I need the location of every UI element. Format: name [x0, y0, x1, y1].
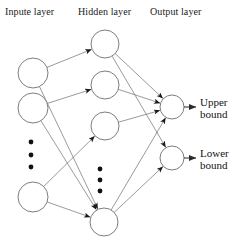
- upper-bound-line2: bound: [200, 108, 228, 120]
- upper-bound-line1: Upper: [200, 96, 228, 108]
- lower-bound-label: Lower bound: [200, 147, 229, 171]
- ellipsis-dot-input-1: [29, 140, 34, 145]
- ellipsis-dot-input-3: [29, 165, 34, 170]
- edge-h1-o2: [112, 56, 166, 147]
- edge-i3-h3: [44, 136, 95, 186]
- ellipsis-dot-hidden-1: [98, 167, 103, 172]
- input-layer-label: Inpute layer: [5, 6, 54, 17]
- edge-i1-h1: [47, 49, 92, 67]
- ellipsis-dot-hidden-3: [98, 189, 103, 194]
- neuron-i1: [18, 58, 48, 88]
- lower-bound-line1: Lower: [200, 147, 229, 159]
- neuron-o2: [160, 146, 184, 170]
- neuron-h4: [90, 208, 118, 236]
- output-arrows: [184, 107, 196, 158]
- neural-network-diagram: Inpute layer Hidden layer Output layer U…: [0, 0, 246, 249]
- neuron-i3: [18, 182, 48, 212]
- edge-i2-h2: [47, 89, 91, 103]
- neuron-i2: [18, 93, 48, 123]
- neuron-h1: [91, 30, 119, 58]
- network-canvas: [0, 0, 246, 249]
- edge-h4-o1: [111, 118, 166, 210]
- edge-h2-o1: [118, 89, 160, 103]
- network-nodes: [18, 30, 184, 236]
- edge-i3-h4: [47, 202, 90, 217]
- edge-h3-o1: [118, 110, 160, 122]
- hidden-layer-label: Hidden layer: [78, 6, 131, 17]
- upper-bound-label: Upper bound: [200, 96, 228, 120]
- output-layer-label: Output layer: [150, 6, 201, 17]
- edge-i1-h4: [39, 87, 97, 209]
- neuron-h2: [91, 71, 119, 99]
- neuron-o1: [160, 95, 184, 119]
- neuron-h3: [91, 112, 119, 140]
- edge-i2-h4: [41, 121, 96, 210]
- edge-h1-o1: [115, 54, 163, 99]
- lower-bound-line2: bound: [200, 159, 229, 171]
- edge-h4-o2: [114, 167, 163, 213]
- edges-hidden-to-output: [111, 54, 166, 213]
- ellipsis-dot-input-2: [29, 153, 34, 158]
- ellipsis-dot-hidden-2: [98, 178, 103, 183]
